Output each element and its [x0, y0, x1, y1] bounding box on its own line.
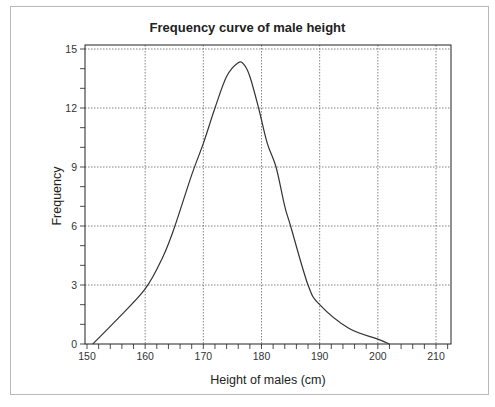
y-axis-label: Frequency	[50, 166, 64, 226]
grid-lines	[85, 45, 451, 344]
x-tick-label: 180	[253, 350, 271, 362]
y-tick-label: 12	[65, 102, 77, 114]
x-tick-label: 150	[78, 350, 96, 362]
x-tick-label: 210	[427, 350, 445, 362]
y-tick-label: 3	[71, 279, 77, 291]
x-tick-label: 200	[369, 350, 387, 362]
frequency-curve	[93, 62, 390, 344]
x-axis-label: Height of males (cm)	[210, 373, 325, 387]
plot-border	[85, 45, 451, 344]
y-tick-label: 15	[65, 43, 77, 55]
y-tick-label: 0	[71, 338, 77, 350]
x-tick-label: 190	[311, 350, 329, 362]
y-tick-label: 9	[71, 161, 77, 173]
y-tick-label: 6	[71, 220, 77, 232]
axes	[85, 45, 451, 344]
x-tick-label: 170	[195, 350, 213, 362]
frequency-chart: 15016017018019020021003691215 Height of …	[0, 0, 495, 407]
x-tick-label: 160	[136, 350, 154, 362]
